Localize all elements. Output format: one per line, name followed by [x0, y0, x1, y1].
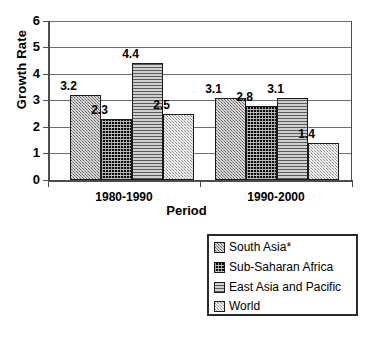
legend-item-east-asia-and-pacific: East Asia and Pacific	[214, 281, 341, 294]
x-category-label-1980-1990: 1980-1990	[74, 190, 174, 204]
bar-value-world-1980-1990: 2.5	[146, 99, 177, 111]
x-category-label-1990-2000: 1990-2000	[226, 190, 326, 204]
legend-label-world: World	[229, 300, 260, 313]
gridline-4	[50, 74, 351, 75]
bar-subsaharan-1980-1990	[101, 119, 132, 180]
y-tick-label-5: 5	[10, 42, 40, 52]
y-tick-label-6: 6	[10, 16, 40, 26]
x-tick-mark-left	[48, 180, 49, 187]
x-tick-mark-middle	[200, 180, 201, 187]
legend-swatch-sub-saharan-africa-icon	[214, 262, 225, 273]
bar-southasia-1990-2000	[215, 98, 246, 180]
legend-swatch-world-icon	[214, 301, 225, 312]
legend-swatch-south-asia-icon	[214, 242, 225, 253]
growth-rate-bar-chart: Growth Rate 6 5 4 3 2 1 0 3.2	[0, 0, 373, 339]
x-axis-title: Period	[0, 203, 373, 218]
x-tick-mark-right	[352, 180, 353, 187]
y-tick-label-1: 1	[10, 148, 40, 158]
legend-item-world: World	[214, 300, 260, 313]
bar-value-eastasia-1990-2000: 3.1	[260, 83, 291, 95]
plot-area	[48, 21, 352, 180]
legend-label-east-asia-and-pacific: East Asia and Pacific	[229, 281, 341, 294]
legend-swatch-east-asia-and-pacific-icon	[214, 282, 225, 293]
bar-world-1990-2000	[308, 143, 339, 180]
legend-item-south-asia: South Asia*	[214, 241, 291, 254]
legend-label-sub-saharan-africa: Sub-Saharan Africa	[229, 261, 333, 274]
bar-value-southasia-1980-1990: 3.2	[53, 80, 84, 92]
bar-value-subsaharan-1990-2000: 2.8	[229, 91, 260, 103]
y-tick-label-2: 2	[10, 122, 40, 132]
bar-world-1980-1990	[163, 114, 194, 180]
y-tick-label-3: 3	[10, 95, 40, 105]
legend-label-south-asia: South Asia*	[229, 241, 291, 254]
chart-legend: South Asia* Sub-Saharan Africa East Asia…	[207, 234, 358, 316]
y-tick-label-4: 4	[10, 69, 40, 79]
bar-value-world-1990-2000: 1.4	[291, 128, 322, 140]
gridline-6	[50, 21, 351, 22]
y-tick-label-0: 0	[10, 175, 40, 185]
gridline-5	[50, 47, 351, 48]
bar-value-eastasia-1980-1990: 4.4	[115, 48, 146, 60]
legend-item-sub-saharan-africa: Sub-Saharan Africa	[214, 261, 333, 274]
bar-eastasia-1980-1990	[132, 63, 163, 180]
bar-subsaharan-1990-2000	[246, 106, 277, 180]
bar-value-southasia-1990-2000: 3.1	[198, 83, 229, 95]
bar-value-subsaharan-1980-1990: 2.3	[84, 104, 115, 116]
